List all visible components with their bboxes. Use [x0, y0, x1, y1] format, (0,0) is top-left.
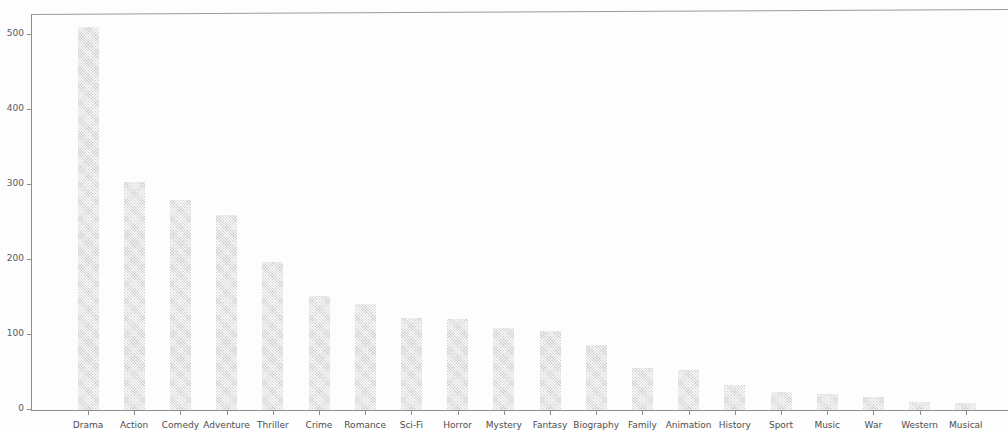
x-axis-tick-mark	[319, 411, 320, 415]
bar	[955, 403, 976, 410]
x-axis-tick-mark	[458, 411, 459, 415]
x-axis-tick-label: Music	[814, 420, 840, 431]
y-axis-tick-label: 500	[7, 28, 24, 39]
x-axis-tick-mark	[365, 411, 366, 415]
x-axis-tick-label: Adventure	[203, 420, 250, 431]
bar	[78, 27, 99, 410]
x-axis-tick-mark	[134, 411, 135, 415]
y-axis-tick-label: 100	[7, 328, 24, 339]
x-axis-tick-label: Musical	[949, 420, 983, 431]
bar	[909, 402, 930, 410]
y-axis-tick-label: 200	[7, 253, 24, 264]
x-axis-tick-mark	[781, 411, 782, 415]
bar	[724, 385, 745, 410]
y-axis-tick-label: 400	[7, 103, 24, 114]
bar	[586, 345, 607, 410]
x-axis-tick-mark	[873, 411, 874, 415]
x-axis-tick-label: Sport	[769, 420, 793, 431]
bar	[124, 182, 145, 410]
y-axis-tick: 300	[0, 184, 31, 185]
x-axis-tick-label: Biography	[573, 420, 619, 431]
x-axis-tick-label: Crime	[306, 420, 333, 431]
x-axis-tick-label: War	[865, 420, 883, 431]
x-axis-tick-mark	[504, 411, 505, 415]
bar	[863, 397, 884, 410]
bar	[817, 394, 838, 410]
bar	[309, 296, 330, 410]
bar	[632, 368, 653, 410]
x-axis-tick-mark	[966, 411, 967, 415]
y-axis-tick: 400	[0, 109, 31, 110]
y-axis-tick-mark	[27, 109, 31, 110]
bar	[401, 318, 422, 410]
x-axis-tick-label: Animation	[666, 420, 712, 431]
plot-top-border	[31, 9, 1008, 15]
bar	[678, 370, 699, 410]
y-axis-tick-label: 0	[18, 403, 24, 414]
x-axis-tick-mark	[88, 411, 89, 415]
x-axis-tick-label: Horror	[443, 420, 472, 431]
bar	[355, 304, 376, 410]
x-axis-tick-mark	[827, 411, 828, 415]
plot-area: 0100200300400500 DramaActionComedyAdvent…	[31, 14, 1008, 411]
x-axis-tick-label: Western	[901, 420, 938, 431]
y-axis-tick-mark	[27, 409, 31, 410]
x-axis-tick-label: Action	[120, 420, 148, 431]
y-axis-tick: 100	[0, 334, 31, 335]
y-axis-spine	[31, 14, 32, 411]
y-axis-tick: 200	[0, 259, 31, 260]
y-axis-tick: 500	[0, 34, 31, 35]
bar	[216, 215, 237, 410]
bar	[170, 200, 191, 410]
x-axis-tick-mark	[550, 411, 551, 415]
x-axis-tick-mark	[642, 411, 643, 415]
y-axis-tick-mark	[27, 334, 31, 335]
y-axis-tick-mark	[27, 34, 31, 35]
bar	[493, 328, 514, 410]
x-axis-tick-mark	[273, 411, 274, 415]
x-axis-tick-mark	[689, 411, 690, 415]
y-axis-tick: 0	[0, 409, 31, 410]
bar	[771, 392, 792, 410]
x-axis-tick-label: Comedy	[162, 420, 199, 431]
x-axis-tick-mark	[735, 411, 736, 415]
y-axis-tick-mark	[27, 259, 31, 260]
x-axis-tick-label: Mystery	[486, 420, 522, 431]
x-axis-tick-label: Family	[628, 420, 657, 431]
x-axis-tick-mark	[920, 411, 921, 415]
bar	[262, 262, 283, 410]
x-axis-tick-mark	[596, 411, 597, 415]
x-axis-tick-label: Romance	[344, 420, 386, 431]
x-axis-tick-label: Drama	[73, 420, 103, 431]
bar	[540, 331, 561, 410]
y-axis-tick-mark	[27, 184, 31, 185]
x-axis-spine	[31, 410, 1008, 411]
x-axis-tick-mark	[227, 411, 228, 415]
x-axis-tick-label: History	[719, 420, 751, 431]
x-axis-tick-label: Thriller	[257, 420, 289, 431]
y-axis-tick-label: 300	[7, 178, 24, 189]
x-axis-tick-mark	[411, 411, 412, 415]
x-axis-tick-label: Fantasy	[533, 420, 568, 431]
x-axis-tick-label: Sci-Fi	[400, 420, 423, 431]
x-axis-tick-mark	[180, 411, 181, 415]
bar	[447, 319, 468, 410]
